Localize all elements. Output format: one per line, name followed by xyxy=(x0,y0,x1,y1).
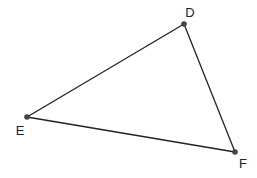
vertex-d-point xyxy=(181,21,187,27)
edge-fd xyxy=(184,24,235,152)
edge-ef xyxy=(27,117,235,152)
vertex-f-point xyxy=(232,149,238,155)
vertex-d-label: D xyxy=(185,5,194,20)
vertex-e-label: E xyxy=(16,123,25,138)
triangle-diagram: D E F xyxy=(0,0,257,178)
vertex-f-label: F xyxy=(239,156,247,171)
vertex-e-point xyxy=(24,114,30,120)
edge-de xyxy=(27,24,184,117)
